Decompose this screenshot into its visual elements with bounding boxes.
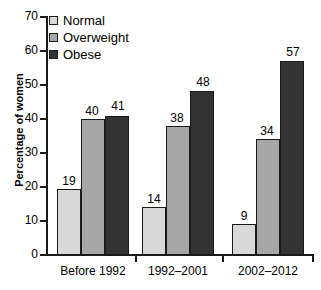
legend-item-normal: Normal [49,12,129,28]
bar-2002-2012-normal [232,224,256,255]
bar-label-1992-2001-obese: 48 [191,75,215,89]
bar-label-before-1992-normal: 19 [57,174,81,188]
x-group-label-1992-2001: 1992–2001 [133,264,223,278]
x-tick-3 [312,256,314,262]
legend-label-normal: Normal [63,14,105,27]
x-group-label-2002-2012: 2002–2012 [223,264,313,278]
bar-1992-2001-obese [190,91,214,255]
bar-before-1992-normal [57,189,81,255]
bar-label-2002-2012-obese: 57 [281,45,305,59]
legend-item-overweight: Overweight [49,29,129,45]
bar-label-before-1992-overweight: 40 [80,104,104,118]
x-axis-line [46,254,314,256]
legend-label-obese: Obese [63,48,101,61]
x-group-label-before-1992: Before 1992 [48,264,138,278]
bar-2002-2012-obese [280,61,304,255]
legend-label-overweight: Overweight [63,31,129,44]
bar-2002-2012-overweight [256,139,280,255]
bar-label-1992-2001-normal: 14 [142,192,166,206]
legend-item-obese: Obese [49,46,129,62]
bar-before-1992-obese [105,116,129,255]
bar-1992-2001-normal [142,207,166,255]
bar-label-2002-2012-overweight: 34 [255,124,279,138]
bar-1992-2001-overweight [166,126,190,255]
bar-chart: Percentage of women 70 60 50 40 30 20 10… [0,0,321,290]
bar-label-before-1992-obese: 41 [106,99,130,113]
bar-label-1992-2001-overweight: 38 [165,111,189,125]
legend-swatch-normal-icon [49,16,58,25]
legend-swatch-overweight-icon [49,33,58,42]
bar-before-1992-overweight [81,119,105,255]
legend: Normal Overweight Obese [49,12,129,63]
legend-swatch-obese-icon [49,50,58,59]
x-tick-2 [222,256,224,262]
bar-label-2002-2012-normal: 9 [232,209,256,223]
x-tick-1 [135,256,137,262]
